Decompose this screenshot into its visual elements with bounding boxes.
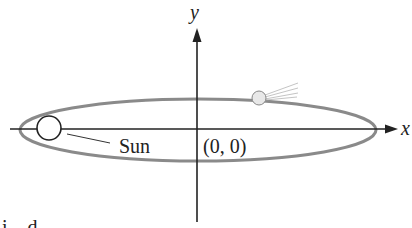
comet-icon [252,91,266,105]
y-axis-arrow-icon [193,28,202,42]
comet-orbit-diagram: Sun (0, 0) x y i d [0,0,412,228]
sun-label: Sun [119,135,150,157]
x-axis [10,125,398,134]
cutoff-text: i d [2,216,38,228]
sun-leader-line [67,134,110,143]
y-axis [193,28,202,222]
origin-label: (0, 0) [203,135,246,158]
sun-circle [37,116,61,140]
orbit-ellipse [20,99,376,161]
y-axis-label: y [188,1,199,24]
x-axis-label: x [400,117,410,139]
x-axis-arrow-icon [385,125,398,134]
